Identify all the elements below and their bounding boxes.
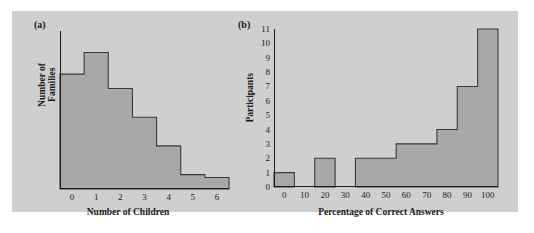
panel-b-x-tick-labels: 0102030405060708090100 <box>274 187 498 203</box>
y-tick-label: 1 <box>266 168 271 178</box>
histogram-bar-group <box>274 173 294 187</box>
y-tick-label: 11 <box>261 24 270 34</box>
x-tick-label: 6 <box>215 192 220 202</box>
x-tick-label: 3 <box>142 192 147 202</box>
y-tick-label: 2 <box>266 153 271 163</box>
x-tick-label: 0 <box>282 190 287 200</box>
y-tick-label: 5 <box>266 110 271 120</box>
y-tick-label: 6 <box>266 96 271 106</box>
panel-b-label: (b) <box>238 19 250 30</box>
y-tick-label: 9 <box>266 53 271 63</box>
panel-b-x-axis-title: Percentage of Correct Answers <box>244 207 518 217</box>
x-tick-label: 30 <box>341 190 350 200</box>
panel-a-y-axis-title: Number of Families <box>38 63 58 107</box>
panel-a-histogram <box>60 31 229 189</box>
panel-b: (b) Participants Percentage of Correct A… <box>244 11 518 212</box>
x-tick-label: 10 <box>300 190 309 200</box>
y-tick-label: 8 <box>266 67 271 77</box>
panel-b-plot-area: 0102030405060708090100 01234567891011 <box>274 29 498 187</box>
histogram-bar-group <box>355 29 498 187</box>
x-tick-label: 50 <box>382 190 391 200</box>
x-tick-label: 0 <box>70 192 75 202</box>
y-tick-label: 3 <box>266 139 271 149</box>
histogram-bar-group <box>315 158 335 187</box>
panel-a-x-tick-labels: 0123456 <box>60 189 229 205</box>
x-tick-label: 4 <box>166 192 171 202</box>
histogram-bar-group <box>60 53 229 189</box>
x-tick-label: 60 <box>402 190 411 200</box>
x-tick-label: 20 <box>320 190 329 200</box>
y-tick-label: 7 <box>266 81 271 91</box>
y-tick-label: 0 <box>266 182 271 192</box>
y-tick-label: 4 <box>266 125 271 135</box>
panel-b-y-tick-labels: 01234567891011 <box>252 29 274 187</box>
panel-a-y-axis-line <box>60 31 61 189</box>
x-tick-label: 1 <box>94 192 99 202</box>
panel-a-label: (a) <box>34 19 46 30</box>
x-tick-label: 80 <box>443 190 452 200</box>
panel-a-plot-area: 0123456 <box>60 31 229 189</box>
panel-a-x-axis-title: Number of Children <box>12 207 244 217</box>
panel-b-y-axis-line <box>274 29 275 187</box>
x-tick-label: 90 <box>463 190 472 200</box>
panel-b-histogram <box>274 29 498 187</box>
panel-a: (a) Number of Families Number of Childre… <box>12 11 244 212</box>
figure-container: (a) Number of Families Number of Childre… <box>0 0 534 233</box>
y-tick-label: 10 <box>261 38 270 48</box>
x-tick-label: 2 <box>118 192 123 202</box>
x-tick-label: 100 <box>481 190 495 200</box>
x-tick-label: 70 <box>422 190 431 200</box>
x-tick-label: 40 <box>361 190 370 200</box>
x-tick-label: 5 <box>191 192 196 202</box>
